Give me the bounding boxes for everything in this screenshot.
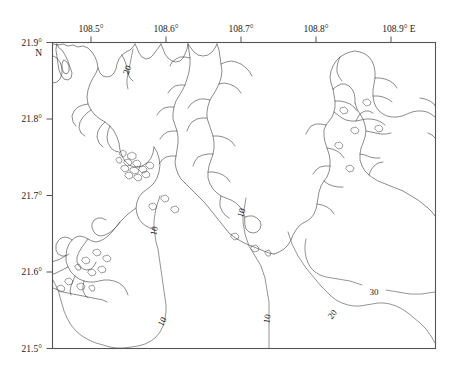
x-tick-label-4: 108.9° E [382,24,416,34]
y-tick-label-0: 21.5° [22,344,43,354]
y-axis-unit-north: N [35,48,42,58]
y-tick-label-3: 21.8° [22,114,43,124]
canvas-background [0,0,453,373]
y-tick-label-1: 21.6° [22,267,43,277]
x-tick-label-2: 108.7° [228,24,253,34]
contour-label-30-east: 30 [370,287,380,297]
x-tick-label-0: 108.5° [78,24,103,34]
y-tick-label-4: 21.9° [22,38,43,48]
map-canvas: 108.5° 108.6° 108.7° 108.8° 108.9° E 21.… [0,0,453,373]
x-tick-label-3: 108.8° [303,24,328,34]
bathymetric-map: 108.5° 108.6° 108.7° 108.8° 108.9° E 21.… [0,0,453,373]
x-tick-label-1: 108.6° [153,24,178,34]
y-tick-label-2: 21.7° [22,191,43,201]
